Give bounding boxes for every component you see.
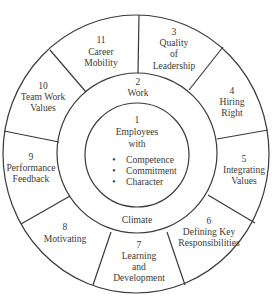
segment-label: Development — [113, 272, 165, 283]
segment-number: 9 — [29, 151, 34, 162]
bullet-commitment: Commitment — [126, 165, 177, 176]
segment-6: 6 Defining Key Responsibilities — [178, 215, 240, 248]
segment-label: Responsibilities — [178, 237, 240, 248]
segment-number: 11 — [96, 34, 105, 45]
bullet-character: Character — [126, 176, 164, 187]
segment-8: 8 Motivating — [44, 221, 87, 244]
core-number: 1 — [135, 114, 140, 125]
segment-label: Feedback — [13, 173, 50, 184]
climate-label: Climate — [122, 214, 152, 225]
segment-label: Integrating — [223, 164, 265, 175]
middle-ring-labels: 2 Work Climate — [122, 76, 152, 225]
segment-label: Leadership — [153, 60, 196, 71]
segment-7: 7 Learning and Development — [113, 239, 165, 283]
segment-5: 5 Integrating Values — [223, 153, 265, 186]
employee-framework-diagram: 1 Employees with • Competence • Commitme… — [0, 0, 274, 299]
core-bullet-list: • Competence • Commitment • Character — [112, 154, 177, 187]
segment-label: Mobility — [84, 57, 118, 68]
segment-9: 9 Performance Feedback — [6, 151, 55, 184]
segment-label: and — [132, 261, 146, 272]
divider-10-11 — [50, 50, 86, 92]
segment-label: Hiring — [219, 96, 244, 107]
segment-label: Performance — [6, 162, 55, 173]
segment-label: Defining Key — [183, 226, 236, 237]
divider-5-6 — [208, 195, 255, 223]
segment-10: 10 Team Work Values — [21, 80, 66, 113]
bullet-competence: Competence — [126, 154, 174, 165]
segment-11: 11 Career Mobility — [84, 34, 118, 68]
segment-number: 7 — [137, 239, 142, 250]
segment-label: Learning — [122, 250, 157, 261]
core-title-line2: with — [128, 138, 145, 149]
segment-4: 4 Hiring Right — [219, 85, 244, 118]
core-title-line1: Employees — [116, 126, 159, 137]
segment-label: Quality — [160, 37, 189, 48]
segment-label: of — [170, 48, 179, 59]
bullet-glyph: • — [112, 176, 115, 187]
segment-label: Team Work — [21, 91, 66, 102]
segment-number: 5 — [242, 153, 247, 164]
segment-label: Values — [30, 102, 56, 113]
segment-number: 4 — [230, 85, 235, 96]
bullet-glyph: • — [112, 154, 115, 165]
divider-8-9 — [21, 196, 70, 224]
core-label: 1 Employees with — [116, 114, 159, 149]
segment-label: Motivating — [44, 233, 87, 244]
segment-label: Career — [88, 46, 114, 57]
bullet-glyph: • — [112, 165, 115, 176]
work-number: 2 — [136, 76, 141, 87]
segment-number: 3 — [172, 26, 177, 37]
segment-label: Right — [221, 107, 243, 118]
divider-11-3 — [138, 15, 139, 73]
segment-number: 10 — [38, 80, 48, 91]
divider-9-10 — [4, 131, 59, 142]
segment-3: 3 Quality of Leadership — [153, 26, 196, 71]
segment-label: Values — [231, 175, 257, 186]
divider-4-5 — [217, 130, 268, 139]
segment-number: 6 — [207, 215, 212, 226]
segment-number: 8 — [63, 221, 68, 232]
work-label: Work — [127, 87, 148, 98]
divider-7-8 — [93, 232, 111, 285]
